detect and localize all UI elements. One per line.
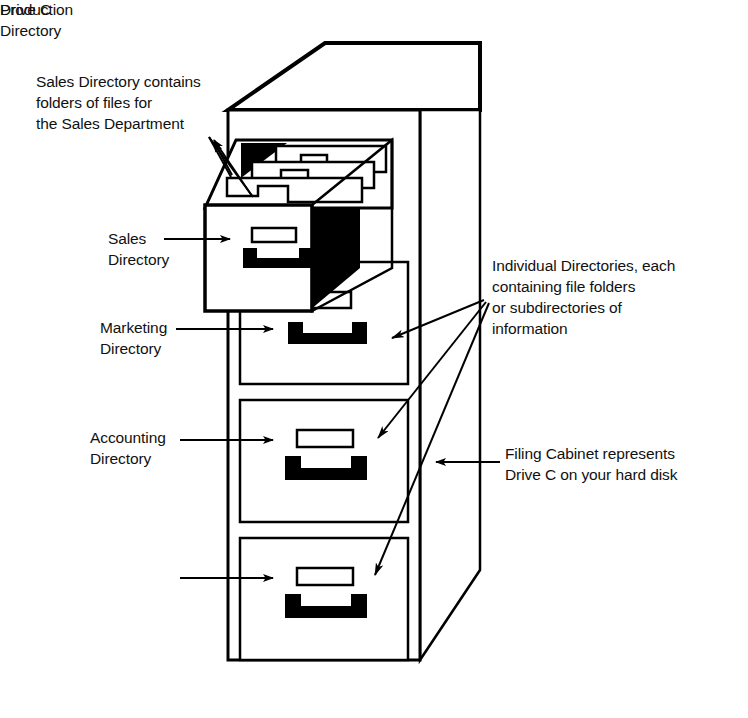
drawer-label-marketing: Marketing Directory [100,318,208,360]
drawer-accounting-label-plate [297,430,353,447]
drawer-sales-label-plate [252,228,296,242]
annotation-individual-directories: Individual Directories, each containing … [492,256,732,340]
drawer-label-accounting: Accounting Directory [90,428,208,470]
cabinet-top-face [228,43,480,110]
drawer-label-sales: Sales Directory [108,229,200,271]
cabinet-right-side [420,110,480,660]
annotation-sales-description: Sales Directory contains folders of file… [36,72,256,135]
drawer-accounting[interactable] [240,400,408,522]
drawer-accounting-front[interactable] [240,400,408,522]
filing-cabinet-diagram: Sales Directory contains folders of file… [0,0,748,718]
annotation-filing-cabinet: Filing Cabinet represents Drive C on you… [505,444,737,486]
drawer-production-label-plate [297,568,353,585]
cabinet-title-drive-c: Drive C [0,0,51,21]
